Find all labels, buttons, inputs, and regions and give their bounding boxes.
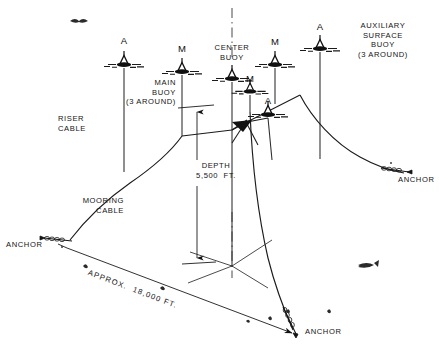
fish-glyph-right <box>358 260 379 268</box>
hub-spoke-down-right <box>247 124 258 145</box>
fish-glyph-left <box>83 264 88 268</box>
bird-glyph-top <box>70 19 88 23</box>
riser-cable-aux-inner <box>268 118 272 160</box>
seafloor-line-ne <box>232 240 272 266</box>
depth-extension-bottom <box>182 262 216 264</box>
buoy-icon-main-left[interactable] <box>162 58 202 74</box>
mooring-cable-bottom <box>250 112 293 330</box>
buoy-flotation-collar <box>261 112 275 117</box>
fish-glyph-bottom-d <box>327 309 331 313</box>
hub-spoke-to-main-left <box>182 130 232 136</box>
buoy-system-diagram: RISER CABLE MOORING CABLE MAIN BUOY (3 A… <box>0 0 439 352</box>
subsurface-hub-marker <box>232 120 252 132</box>
fish-glyph-bottom-b <box>268 316 272 320</box>
buoy-icon-aux-right[interactable] <box>300 35 340 51</box>
fish-glyph-mid <box>160 286 165 290</box>
riser-cable-label: RISER CABLE <box>58 114 86 133</box>
speck-left <box>61 246 63 248</box>
buoy-flotation-collar <box>225 76 239 81</box>
anchor-chain-right <box>381 167 412 174</box>
mooring-cable-label: MOORING CABLE <box>38 196 124 215</box>
depth-label: DEPTH 5,500 FT. <box>185 161 247 180</box>
buoy-tag-main-left: M <box>172 44 192 54</box>
mooring-cable-right <box>300 95 404 173</box>
speck-right <box>390 162 392 164</box>
anchor-right-label: ANCHOR <box>398 175 435 185</box>
subsurface-hub-lines <box>182 95 300 145</box>
buoy-flotation-collar <box>117 62 131 67</box>
buoy-tag-main-inner: M <box>240 74 260 84</box>
buoy-tag-main-right: M <box>265 37 285 47</box>
fish-glyph-bottom-a <box>246 320 250 323</box>
span-dimension-line <box>67 248 292 333</box>
seafloor-line-se <box>232 266 268 288</box>
anchor-chain-bottom <box>283 307 298 338</box>
main-buoy-label: MAIN BUOY (3 AROUND) <box>82 78 176 107</box>
mooring-cable-left <box>70 136 182 240</box>
depth-extension-top <box>178 105 214 108</box>
anchor-chain-left <box>40 236 72 242</box>
seafloor-spread-lines <box>188 240 272 288</box>
buoy-flotation-collar <box>313 46 327 51</box>
seafloor-line-nw <box>190 252 232 266</box>
auxiliary-buoy-label: AUXILIARY SURFACE BUOY (3 AROUND) <box>341 21 425 59</box>
buoy-flotation-collar <box>243 89 256 93</box>
span-dimension <box>58 244 292 333</box>
anchor-bottom-label: ANCHOR <box>305 327 342 337</box>
buoy-flotation-collar <box>175 69 189 74</box>
buoy-tag-aux-inner: A <box>258 96 278 106</box>
depth-dimension <box>178 105 216 264</box>
buoy-icon-aux-left[interactable] <box>104 51 144 67</box>
center-buoy-label: CENTER BUOY <box>200 43 264 62</box>
buoy-tag-aux-right: A <box>310 22 330 32</box>
buoy-tag-aux-left: A <box>114 36 134 46</box>
anchor-left-label: ANCHOR <box>6 240 43 250</box>
seafloor-line-sw <box>188 266 232 283</box>
buoy-flotation-collar <box>268 62 282 67</box>
